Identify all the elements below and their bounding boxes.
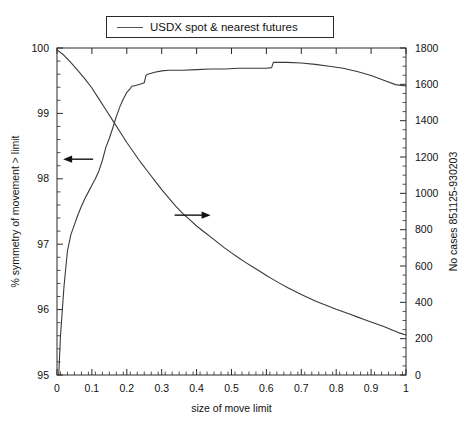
y-right-tick-label: 200	[415, 332, 433, 344]
y-right-tick-label: 1200	[415, 151, 439, 163]
x-tick-label: 0.4	[189, 382, 204, 394]
x-tick-label: 0.3	[154, 382, 169, 394]
y-left-axis-label: % symmetry of movement > limit	[9, 135, 21, 287]
x-tick-label: 0.7	[294, 382, 309, 394]
y-left-tick-label: 97	[37, 238, 49, 250]
x-tick-label: 0.6	[259, 382, 274, 394]
y-left-tick-label: 99	[37, 107, 49, 119]
y-right-tick-label: 1000	[415, 187, 439, 199]
left-arrow-annotation	[63, 156, 93, 163]
y-right-tick-label: 400	[415, 296, 433, 308]
x-tick-label: 0.8	[329, 382, 344, 394]
y-right-tick-label: 600	[415, 260, 433, 272]
y-right-tick-label: 1400	[415, 114, 439, 126]
x-tick-label: 0.5	[224, 382, 239, 394]
y-right-tick-label: 1600	[415, 78, 439, 90]
x-tick-label: 0	[54, 382, 60, 394]
y-right-tick-label: 800	[415, 223, 433, 235]
y-left-tick-label: 95	[37, 369, 49, 381]
x-axis-label: size of move limit	[191, 402, 272, 414]
right-arrow-annotation	[175, 212, 211, 219]
arrow-head	[202, 212, 211, 219]
x-tick-label: 0.2	[119, 382, 134, 394]
y-right-axis-label: No cases 851125-930203	[447, 152, 459, 272]
chart-figure: 00.10.20.30.40.50.60.70.80.9195969798991…	[0, 0, 472, 437]
arrow-head	[63, 156, 72, 163]
plot-frame	[57, 48, 406, 375]
x-tick-label: 0.9	[364, 382, 379, 394]
y-right-tick-label: 0	[415, 369, 421, 381]
x-tick-label: 1	[403, 382, 409, 394]
y-left-tick-label: 98	[37, 172, 49, 184]
y-right-tick-label: 1800	[415, 42, 439, 54]
series-cases-line	[57, 50, 406, 335]
series-symmetry-line	[59, 62, 406, 375]
y-left-tick-label: 96	[37, 303, 49, 315]
x-tick-label: 0.1	[85, 382, 100, 394]
y-left-tick-label: 100	[31, 42, 49, 54]
